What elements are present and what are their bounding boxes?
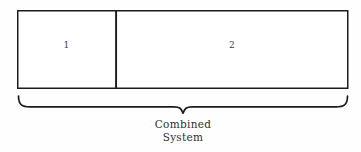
brace-caption: Combined System [103,118,263,144]
combined-system-brace [19,96,348,113]
subsystem-2-label: 2 [116,41,348,50]
subsystem-1-label: 1 [17,41,116,50]
brace-caption-line-2: System [103,131,263,144]
figure-canvas: 1 2 Combined System [0,0,361,152]
brace-caption-line-1: Combined [103,118,263,131]
